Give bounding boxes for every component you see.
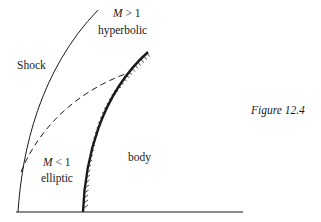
figure-caption: Figure 12.4 [251,105,305,117]
hyperbolic-label: hyperbolic [98,25,147,37]
elliptic-label: elliptic [41,173,73,185]
subsonic-mach-label: M < 1 [43,157,71,169]
figure-canvas: M > 1 hyperbolic Shock M < 1 elliptic bo… [0,0,321,222]
shock-label: Shock [17,60,46,72]
body-label: body [128,152,151,164]
supersonic-mach-label: M > 1 [113,8,141,20]
body-hatching [84,53,150,208]
body-surface [83,52,148,212]
sonic-line [21,73,128,172]
